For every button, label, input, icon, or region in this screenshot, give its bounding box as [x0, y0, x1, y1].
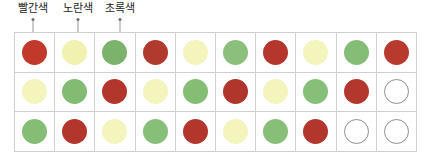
grid-cell[interactable]: [296, 112, 336, 152]
color-circle-icon: [183, 119, 208, 144]
grid-cell[interactable]: [95, 33, 135, 73]
color-circle-icon: [62, 119, 87, 144]
grid-cell[interactable]: [55, 73, 95, 113]
grid-cell[interactable]: [136, 33, 176, 73]
color-circle-icon: [263, 79, 288, 104]
grid-cell[interactable]: [256, 73, 296, 113]
grid-cell[interactable]: [216, 73, 256, 113]
empty-circle-icon: [384, 119, 409, 144]
grid-cell[interactable]: [216, 33, 256, 73]
grid-cell[interactable]: [296, 73, 336, 113]
grid-cell[interactable]: [337, 33, 377, 73]
color-circle-icon: [223, 119, 248, 144]
grid-cell[interactable]: [55, 112, 95, 152]
legend-label-노란색: 노란색: [63, 2, 92, 16]
color-circle-icon: [22, 79, 47, 104]
color-circle-icon: [183, 79, 208, 104]
empty-circle-icon: [384, 79, 409, 104]
color-circle-icon: [303, 40, 328, 65]
legend-label-빨간색: 빨간색: [18, 2, 47, 16]
color-circle-icon: [223, 79, 248, 104]
color-circle-icon: [102, 79, 127, 104]
grid-cell[interactable]: [15, 112, 55, 152]
grid-cell[interactable]: [256, 112, 296, 152]
grid-cell[interactable]: [55, 33, 95, 73]
color-circle-icon: [303, 79, 328, 104]
color-circle-icon: [143, 40, 168, 65]
legend: 빨간색노란색초록색: [0, 2, 430, 32]
grid-cell[interactable]: [176, 73, 216, 113]
color-circle-icon: [263, 40, 288, 65]
grid-cell[interactable]: [176, 33, 216, 73]
color-circle-icon: [303, 119, 328, 144]
grid-cell[interactable]: [15, 73, 55, 113]
color-circle-icon: [102, 40, 127, 65]
grid-cell[interactable]: [377, 112, 417, 152]
color-pattern-figure: 빨간색노란색초록색: [0, 0, 430, 163]
grid-cell[interactable]: [337, 73, 377, 113]
grid-cell[interactable]: [337, 112, 377, 152]
color-circle-icon: [143, 79, 168, 104]
color-circle-icon: [102, 119, 127, 144]
grid-cell[interactable]: [95, 112, 135, 152]
color-circle-icon: [344, 79, 369, 104]
color-circle-icon: [344, 40, 369, 65]
color-circle-icon: [22, 40, 47, 65]
empty-circle-icon: [344, 119, 369, 144]
color-circle-icon: [263, 119, 288, 144]
color-circle-icon: [62, 40, 87, 65]
grid-cell[interactable]: [95, 73, 135, 113]
color-circle-icon: [62, 79, 87, 104]
color-circle-icon: [183, 40, 208, 65]
grid-cell[interactable]: [176, 112, 216, 152]
legend-label-초록색: 초록색: [105, 2, 134, 16]
grid-cell[interactable]: [136, 112, 176, 152]
color-circle-icon: [143, 119, 168, 144]
grid-cell[interactable]: [136, 73, 176, 113]
color-circle-icon: [22, 119, 47, 144]
grid-cell[interactable]: [377, 73, 417, 113]
color-circle-icon: [223, 40, 248, 65]
grid-cell[interactable]: [256, 33, 296, 73]
grid-cell[interactable]: [296, 33, 336, 73]
grid-cell[interactable]: [216, 112, 256, 152]
grid-cell[interactable]: [377, 33, 417, 73]
color-circle-icon: [384, 40, 409, 65]
grid-cell[interactable]: [15, 33, 55, 73]
color-grid: [14, 32, 417, 152]
